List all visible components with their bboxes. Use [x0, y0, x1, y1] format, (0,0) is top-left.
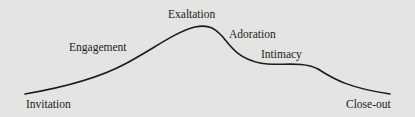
stage-label-intimacy: Intimacy [261, 49, 302, 61]
stage-curve-diagram: Invitation Engagement Exaltation Adorati… [0, 0, 415, 117]
stage-label-engagement: Engagement [69, 42, 126, 54]
stage-label-exaltation: Exaltation [168, 9, 215, 21]
stage-label-invitation: Invitation [26, 99, 71, 111]
stage-label-adoration: Adoration [229, 29, 276, 41]
stage-label-close-out: Close-out [346, 99, 391, 111]
